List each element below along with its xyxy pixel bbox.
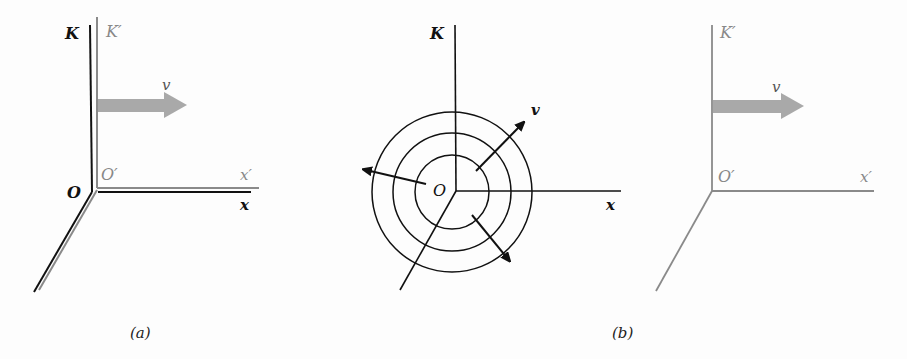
wavefront-outer (372, 112, 532, 272)
origin-prime-label: O′ (101, 165, 118, 184)
k-z-axis-b (400, 191, 456, 290)
velocity-label-b-prime: v (772, 78, 781, 96)
frame-k-prime-label: K′ (105, 22, 122, 41)
velocity-arrow-icon (98, 92, 187, 118)
panel-b-moving-frame: v K′ O′ x′ (656, 23, 874, 291)
k-vertical-axis-b (455, 25, 456, 191)
caption-a: (a) (130, 324, 151, 342)
x-label: x (239, 196, 250, 214)
x-prime-label-b: x′ (860, 168, 872, 186)
caption-b: (b) (612, 324, 633, 342)
velocity-label: v (162, 76, 171, 94)
origin-label-b: O (433, 181, 446, 200)
ray-arrow-upper-right-icon (476, 124, 522, 171)
wavefront-middle (393, 133, 511, 251)
wavefront-inner (415, 155, 489, 229)
velocity-arrow-b-icon (713, 93, 804, 119)
velocity-label-b: v (531, 101, 540, 119)
frame-k-label: K (64, 24, 80, 43)
panel-a: v K K′ O O′ x′ x (a) (34, 17, 259, 342)
origin-prime-label-b: O′ (718, 167, 735, 186)
k-prime-z-axis-b (656, 191, 712, 291)
k-z-axis (34, 192, 92, 292)
frame-k-label-b: K (429, 24, 445, 43)
figure: v K K′ O O′ x′ x (a) K O v x (b) (0, 0, 907, 359)
panel-b-rest-frame: K O v x (b) (366, 24, 633, 342)
k-prime-z-axis (39, 190, 97, 290)
wavefronts (372, 112, 532, 272)
k-vertical-axis (90, 25, 92, 192)
x-label-b: x (605, 196, 616, 214)
frame-k-prime-label-b: K′ (719, 23, 736, 42)
x-prime-label: x′ (240, 166, 252, 184)
origin-label: O (67, 183, 81, 202)
